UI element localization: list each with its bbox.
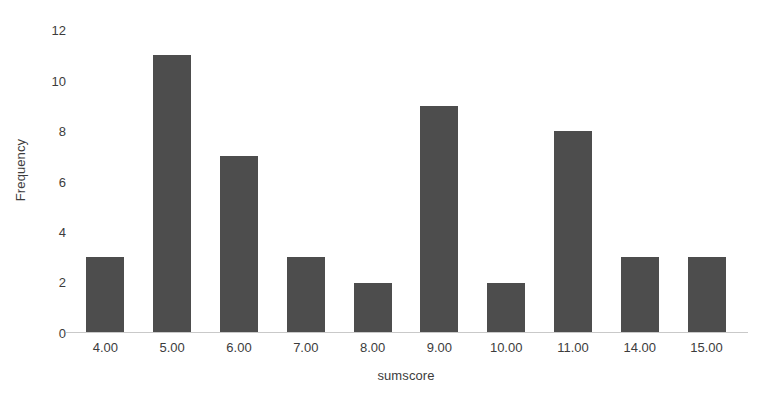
- x-tick-label: 9.00: [406, 340, 473, 362]
- bar-slot: [139, 30, 206, 333]
- x-tick-label: 5.00: [139, 340, 206, 362]
- x-tick-label: 4.00: [72, 340, 139, 362]
- x-axis-tick-labels: 4.005.006.007.008.009.0010.0011.0014.001…: [72, 340, 740, 362]
- bar-slot: [606, 30, 673, 333]
- bar-slot: [339, 30, 406, 333]
- y-tick-label: 4: [59, 225, 66, 240]
- bar: [287, 257, 325, 333]
- bar-slot: [406, 30, 473, 333]
- bar: [420, 106, 458, 333]
- histogram-chart: Frequency 12 10 8 6 4 2 0 4.005.006.007.…: [0, 0, 768, 405]
- bar: [554, 131, 592, 333]
- bar: [153, 55, 191, 333]
- bar-slot: [72, 30, 139, 333]
- bar-slot: [272, 30, 339, 333]
- y-tick-label: 6: [59, 174, 66, 189]
- x-tick-label: 15.00: [673, 340, 740, 362]
- y-tick-label: 12: [52, 23, 66, 38]
- bar: [86, 257, 124, 333]
- y-axis-tick-labels: 12 10 8 6 4 2 0: [38, 30, 66, 333]
- bar: [621, 257, 659, 333]
- x-tick-label: 10.00: [473, 340, 540, 362]
- bar-slot: [540, 30, 607, 333]
- bar: [688, 257, 726, 333]
- bar-slot: [206, 30, 273, 333]
- bar: [220, 156, 258, 333]
- bar: [354, 283, 392, 334]
- y-tick-label: 10: [52, 73, 66, 88]
- x-tick-label: 11.00: [540, 340, 607, 362]
- y-tick-label: 8: [59, 123, 66, 138]
- y-tick-label: 0: [59, 326, 66, 341]
- bar-slot: [673, 30, 740, 333]
- x-axis-title: sumscore: [72, 368, 740, 383]
- x-axis-line: [66, 332, 748, 333]
- x-tick-label: 8.00: [339, 340, 406, 362]
- y-tick-label: 2: [59, 275, 66, 290]
- x-tick-label: 14.00: [606, 340, 673, 362]
- bar-series: [72, 30, 740, 333]
- y-axis-title: Frequency: [0, 0, 40, 340]
- bar: [487, 283, 525, 334]
- x-tick-label: 7.00: [272, 340, 339, 362]
- x-tick-label: 6.00: [206, 340, 273, 362]
- bar-slot: [473, 30, 540, 333]
